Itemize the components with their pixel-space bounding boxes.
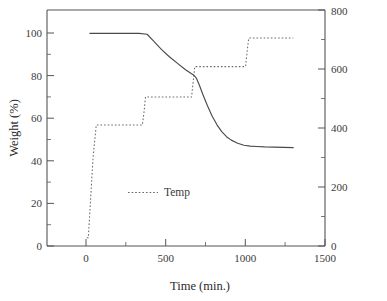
ytick-label-100: 100 [26, 27, 43, 39]
chart-svg: 0 20 40 60 80 100 0 200 400 600 800 [0, 0, 387, 301]
ytick-label-80: 80 [31, 70, 43, 82]
y2tick-label-200: 200 [331, 181, 348, 193]
y2tick-label-600: 600 [331, 63, 348, 75]
xtick-label-1000: 1000 [234, 252, 257, 264]
y-axis-title: Weight (%) [7, 99, 21, 157]
tga-temperature-chart: 0 20 40 60 80 100 0 200 400 600 800 [0, 0, 387, 301]
ytick-label-40: 40 [31, 155, 43, 167]
legend-temp-label: Temp [164, 186, 190, 199]
ytick-label-60: 60 [31, 112, 43, 124]
y2tick-label-400: 400 [331, 122, 348, 134]
y2tick-label-800: 800 [331, 5, 348, 17]
xtick-label-1500: 1500 [314, 252, 337, 264]
ytick-label-0: 0 [37, 240, 43, 252]
y2tick-label-0: 0 [331, 240, 337, 252]
xtick-label-500: 500 [157, 252, 174, 264]
x-axis-title: Time (min.) [170, 279, 230, 293]
xtick-label-0: 0 [83, 252, 89, 264]
ytick-label-20: 20 [31, 197, 43, 209]
